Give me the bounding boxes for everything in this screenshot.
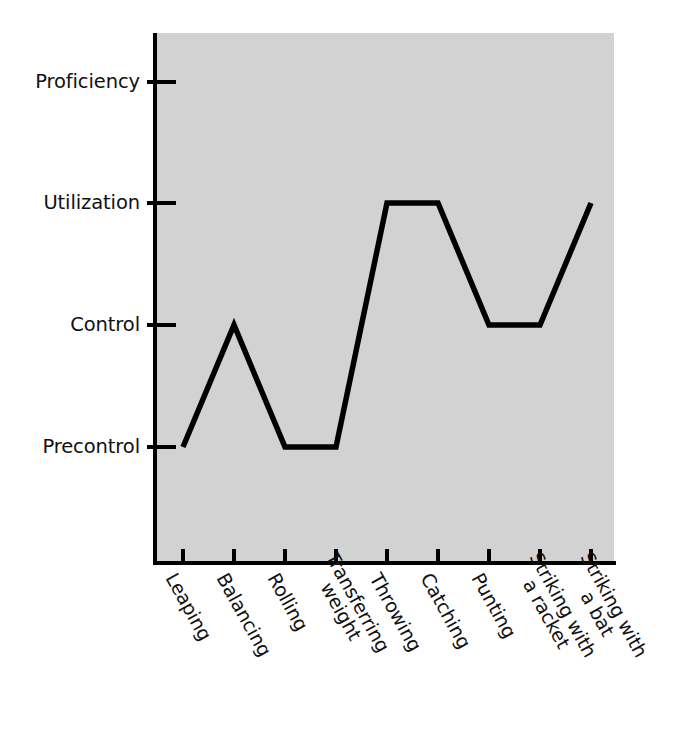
plot-area-background xyxy=(153,33,614,563)
y-axis-label-proficiency-text: Proficiency xyxy=(35,72,140,92)
skill-proficiency-line-chart: Proficiency Utilization Control Precontr… xyxy=(0,0,679,743)
y-axis-label-precontrol-text: Precontrol xyxy=(42,437,140,457)
y-axis-label-control-text: Control xyxy=(70,315,140,335)
y-axis-label-utilization-text: Utilization xyxy=(43,193,140,213)
